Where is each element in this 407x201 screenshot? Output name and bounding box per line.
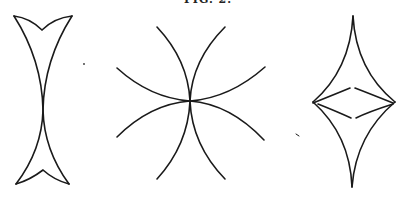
stray-dot	[83, 63, 85, 65]
middle-crossing-arcs-figure	[117, 27, 265, 179]
arc-left-bottom-to-right-top	[117, 67, 265, 137]
stray-dash	[296, 134, 299, 136]
right-astroid-figure	[313, 16, 395, 187]
left-cusp-figure	[14, 16, 72, 184]
left-figure-right-stroke	[16, 16, 72, 184]
left-figure-top-notch	[14, 16, 72, 30]
arc-top-right-to-bottom-left	[157, 27, 225, 179]
diagram-canvas	[0, 0, 407, 201]
astroid-outer-bottom-right	[352, 102, 395, 187]
astroid-inner-top-left	[313, 88, 350, 103]
stray-marks	[83, 63, 299, 136]
astroid-inner-bottom-right	[356, 104, 393, 118]
astroid-outer-bottom-left	[313, 102, 352, 187]
left-figure-left-stroke	[14, 16, 69, 184]
arc-top-left-to-bottom-right	[157, 27, 225, 179]
